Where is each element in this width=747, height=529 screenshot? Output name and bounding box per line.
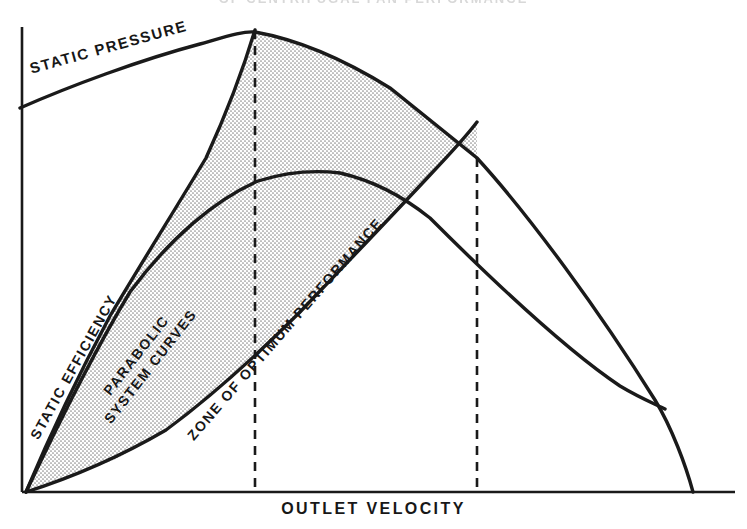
chart-canvas [0,0,747,529]
chart-figure: OF CENTRIFUGAL FAN PERFORMANCE STATIC PR… [0,0,747,529]
zone-of-optimum-performance-shading [26,30,477,492]
